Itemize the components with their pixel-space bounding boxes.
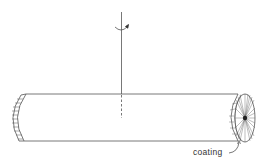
coating-label: coating	[193, 147, 223, 157]
cylinder-diagram	[0, 0, 270, 168]
left-end-coating	[12, 94, 26, 141]
rotation-arrow-icon	[115, 27, 127, 30]
right-end-coating	[229, 94, 255, 142]
